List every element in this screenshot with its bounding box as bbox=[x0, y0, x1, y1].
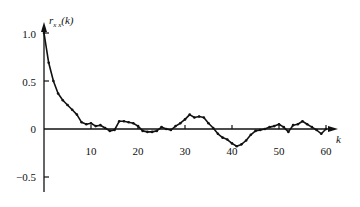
data-point bbox=[250, 133, 253, 136]
data-point bbox=[203, 116, 206, 119]
data-point bbox=[273, 125, 276, 128]
data-point bbox=[80, 121, 83, 124]
data-point bbox=[315, 129, 318, 132]
data-point bbox=[311, 126, 314, 129]
x-tick-label-50: 50 bbox=[267, 146, 291, 157]
data-point bbox=[287, 131, 290, 134]
data-point bbox=[71, 109, 74, 112]
data-point bbox=[62, 99, 65, 102]
data-point bbox=[146, 131, 149, 134]
data-point bbox=[217, 133, 220, 136]
y-tick-label-1.0: 1.0 bbox=[2, 29, 36, 40]
data-point bbox=[57, 92, 60, 95]
data-point bbox=[52, 80, 55, 83]
data-point bbox=[160, 126, 163, 129]
data-point bbox=[123, 120, 126, 123]
y-tick-label-0.5: 0.5 bbox=[2, 77, 36, 88]
x-tick-label-20: 20 bbox=[126, 146, 150, 157]
data-point bbox=[174, 125, 177, 128]
data-point bbox=[47, 61, 50, 64]
data-point bbox=[325, 128, 328, 131]
data-point bbox=[207, 122, 210, 125]
data-point bbox=[151, 131, 154, 134]
data-point bbox=[170, 129, 173, 132]
data-point bbox=[90, 122, 93, 125]
data-point bbox=[193, 116, 196, 119]
data-point bbox=[141, 130, 144, 133]
data-point bbox=[301, 120, 304, 123]
data-point bbox=[85, 123, 88, 126]
data-point bbox=[179, 122, 182, 125]
data-point bbox=[282, 126, 285, 129]
data-point bbox=[268, 126, 271, 129]
data-point bbox=[292, 124, 295, 127]
data-point bbox=[66, 104, 69, 107]
data-point bbox=[320, 133, 323, 136]
data-point bbox=[245, 139, 248, 142]
x-axis-title: k bbox=[336, 133, 341, 145]
data-point bbox=[188, 113, 191, 116]
x-axis-arrow-icon bbox=[328, 126, 338, 132]
data-point bbox=[306, 123, 309, 126]
data-point bbox=[259, 129, 262, 132]
data-point bbox=[297, 123, 300, 126]
data-point bbox=[127, 121, 130, 124]
x-tick-label-40: 40 bbox=[220, 146, 244, 157]
data-point bbox=[156, 130, 159, 133]
data-point bbox=[278, 123, 281, 126]
x-tick-label-30: 30 bbox=[173, 146, 197, 157]
y-axis-arrow-icon bbox=[41, 22, 47, 32]
y-title-arg: (k) bbox=[61, 14, 73, 26]
data-point bbox=[132, 122, 135, 125]
autocorrelation-chart bbox=[0, 0, 360, 207]
data-point bbox=[104, 127, 107, 130]
x-tick-label-10: 10 bbox=[79, 146, 103, 157]
y-tick-label-neg0.5: −0.5 bbox=[2, 172, 36, 183]
data-point bbox=[99, 124, 102, 127]
data-point bbox=[113, 129, 116, 132]
data-point bbox=[254, 130, 257, 133]
data-point bbox=[198, 115, 201, 118]
data-point bbox=[165, 128, 168, 131]
data-point bbox=[137, 125, 140, 128]
x-tick-label-60: 60 bbox=[314, 146, 338, 157]
data-point bbox=[184, 118, 187, 121]
data-points bbox=[43, 32, 328, 148]
data-point bbox=[221, 136, 224, 139]
data-point bbox=[118, 120, 121, 123]
y-tick-label-0: 0 bbox=[2, 124, 36, 135]
data-point bbox=[109, 130, 112, 133]
data-point bbox=[76, 113, 79, 116]
y-ticks bbox=[44, 33, 49, 177]
data-point bbox=[226, 138, 229, 141]
data-point bbox=[43, 32, 46, 35]
data-point bbox=[94, 125, 97, 128]
data-point bbox=[264, 128, 267, 131]
y-axis-title: rx x(k) bbox=[49, 14, 73, 29]
data-point bbox=[212, 127, 215, 130]
